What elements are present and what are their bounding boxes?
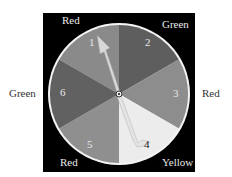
label-bottom-left: Red <box>60 156 78 168</box>
label-right: Red <box>202 87 220 99</box>
wedge-number-5: 5 <box>87 138 93 150</box>
label-top-right: Green <box>162 18 189 30</box>
wedge-number-1: 1 <box>89 36 95 48</box>
label-left: Green <box>9 87 36 99</box>
wedge-number-6: 6 <box>60 86 66 98</box>
wedge-number-2: 2 <box>145 36 151 48</box>
wedge-number-4: 4 <box>144 138 150 150</box>
label-top-left: Red <box>62 14 80 26</box>
wedge-number-3: 3 <box>173 87 179 99</box>
label-bottom-right: Yellow <box>162 156 193 168</box>
